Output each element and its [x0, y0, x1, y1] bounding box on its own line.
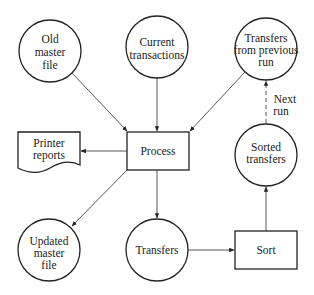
svg-text:Printer: Printer	[33, 137, 64, 149]
node-old-master-file: Old master file	[19, 20, 81, 82]
svg-text:master: master	[34, 247, 65, 259]
svg-text:Transfers: Transfers	[244, 32, 288, 44]
svg-text:file: file	[42, 59, 57, 71]
svg-text:file: file	[41, 259, 56, 271]
svg-text:reports: reports	[33, 149, 65, 162]
svg-text:Transfers: Transfers	[135, 244, 179, 256]
svg-text:transactions: transactions	[130, 49, 185, 61]
svg-text:Sort: Sort	[256, 244, 276, 256]
edge-old-master-to-process	[72, 73, 127, 131]
node-current-transactions: Current transactions	[126, 16, 188, 78]
svg-text:transfers: transfers	[246, 153, 286, 165]
svg-text:Old: Old	[41, 33, 59, 45]
edge-transfers-prev-to-process	[190, 72, 245, 131]
node-transfers-from-previous-run: Transfers from previous run	[234, 18, 299, 80]
node-updated-master-file: Updated master file	[18, 219, 80, 281]
svg-text:run: run	[258, 56, 274, 68]
svg-text:Process: Process	[140, 145, 176, 157]
next-run-label-line1: Next	[274, 93, 297, 105]
node-transfers: Transfers	[126, 219, 188, 281]
svg-text:Sorted: Sorted	[251, 141, 281, 153]
node-sorted-transfers: Sorted transfers	[235, 124, 297, 186]
node-printer-reports: Printer reports	[18, 132, 80, 172]
next-run-label-line2: run	[273, 105, 289, 117]
node-sort: Sort	[235, 231, 297, 269]
edge-process-to-updated-master	[72, 170, 127, 226]
svg-text:Current: Current	[139, 36, 175, 48]
node-process: Process	[127, 132, 189, 170]
svg-text:master: master	[35, 46, 66, 58]
flowchart: Next run Old master file Current transac…	[0, 0, 314, 295]
